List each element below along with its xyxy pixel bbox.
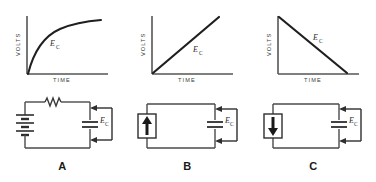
- x-axis-label: TIME: [304, 77, 322, 83]
- curve-label-ec: E: [192, 45, 198, 54]
- capacitor-icon: [207, 122, 223, 127]
- curve-label-ec-sub: C: [319, 38, 323, 44]
- y-axis-label: VOLTS: [266, 33, 272, 56]
- curve-label-ec: E: [49, 39, 55, 48]
- arrow-down-icon: [264, 114, 282, 138]
- circuit-b-svg: E C: [125, 90, 250, 162]
- y-axis-label: VOLTS: [140, 33, 146, 56]
- meter-label-ec-sub: C: [105, 121, 109, 127]
- capacitor-icon: [331, 122, 347, 127]
- curve-ec: [153, 17, 219, 73]
- graph-a-svg: VOLTS TIME E C: [0, 4, 125, 88]
- meter-label-ec-sub: C: [354, 121, 358, 127]
- circuit-a-svg: E C: [0, 90, 125, 162]
- panel-b: VOLTS TIME E C: [125, 0, 250, 182]
- panel-letter-c: C: [251, 160, 376, 172]
- figure-capacitor-waveforms: VOLTS TIME E C: [0, 0, 376, 182]
- arrow-up-icon: [138, 114, 156, 138]
- panel-letter-a: A: [0, 160, 125, 172]
- capacitor-icon: [82, 122, 98, 127]
- curve-label-ec: E: [312, 33, 318, 42]
- meter-label-ec-sub: C: [230, 121, 234, 127]
- arrow-left-bottom-icon: [339, 138, 346, 144]
- resistor-icon: [45, 98, 61, 106]
- graph-c-svg: VOLTS TIME E C: [251, 4, 376, 88]
- panel-letter-b: B: [125, 160, 250, 172]
- y-axis-label: VOLTS: [15, 33, 21, 56]
- graph-a: VOLTS TIME E C: [0, 4, 125, 88]
- arrow-left-top-icon: [215, 106, 222, 112]
- circuit-c-svg: E C: [251, 90, 376, 162]
- graph-b-svg: VOLTS TIME E C: [125, 4, 250, 88]
- circuit-b: E C: [125, 90, 250, 162]
- arrow-left-bottom-icon: [90, 137, 97, 143]
- curve-label-ec-sub: C: [56, 44, 60, 50]
- meter-bracket: [215, 106, 237, 144]
- curve-label-ec-sub: C: [199, 50, 203, 56]
- curve-ec: [28, 20, 101, 74]
- graph-c: VOLTS TIME E C: [251, 4, 376, 88]
- battery-icon: [16, 115, 34, 135]
- circuit-c: E C: [251, 90, 376, 162]
- graph-b: VOLTS TIME E C: [125, 4, 250, 88]
- panel-c: VOLTS TIME E C: [251, 0, 376, 182]
- x-axis-label: TIME: [178, 77, 196, 83]
- arrow-left-bottom-icon: [215, 138, 222, 144]
- x-axis-label: TIME: [53, 77, 71, 83]
- arrow-left-top-icon: [339, 106, 346, 112]
- curve-ec: [279, 17, 347, 73]
- meter-bracket: [339, 106, 361, 144]
- panel-a: VOLTS TIME E C: [0, 0, 125, 182]
- arrow-left-top-icon: [90, 105, 97, 111]
- circuit-a: E C: [0, 90, 125, 162]
